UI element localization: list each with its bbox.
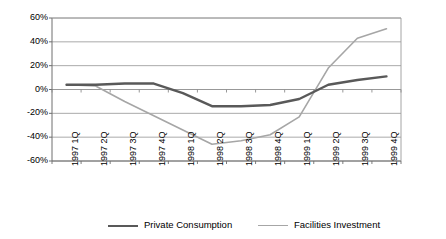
x-axis-tick-label: 1998 1Q [187,131,196,166]
legend-swatch [258,225,288,226]
x-axis-tick-label: 1999 1Q [303,131,312,166]
legend-swatch [108,225,138,227]
legend-label: Facilities Investment [294,220,380,230]
x-axis-tick-label: 1998 2Q [216,131,225,166]
x-axis-tick-label: 1997 3Q [129,131,138,166]
x-axis-tick-label: 1998 3Q [245,131,254,166]
legend-label: Private Consumption [144,220,232,230]
series-line-facilities-investment [67,29,387,145]
x-axis-tick-label: 1999 2Q [332,131,341,166]
x-axis-tick-label: 1997 4Q [158,131,167,166]
plot-area [0,0,446,239]
x-axis-tick-label: 1999 4Q [390,131,399,166]
x-axis-tick-label: 1998 4Q [274,131,283,166]
chart-container: 60%40%20%0%-20%-40%-60% 1997 1Q1997 2Q19… [0,0,446,239]
x-axis-tick-label: 1997 1Q [71,131,80,166]
x-axis-tick-label: 1997 2Q [100,131,109,166]
x-axis-tick-label: 1999 3Q [361,131,370,166]
